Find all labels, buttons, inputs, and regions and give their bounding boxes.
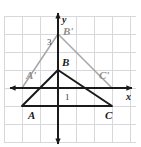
y-axis-label: y [62, 15, 66, 25]
measure-label-height: 3 [47, 38, 52, 47]
coordinate-plane-figure: x y A' B' C' A B C 1 3 [0, 0, 141, 147]
vertex-label-b: B [62, 57, 69, 68]
vertex-label-c: C [105, 110, 112, 121]
vertex-label-a-prime: A' [26, 70, 36, 81]
vertex-label-c-prime: C' [99, 70, 109, 81]
geometry-canvas [0, 0, 141, 147]
x-axis-label: x [126, 92, 131, 102]
measure-label-base: 1 [65, 93, 70, 102]
vertex-label-a: A [28, 110, 35, 121]
vertex-label-b-prime: B' [63, 26, 73, 37]
